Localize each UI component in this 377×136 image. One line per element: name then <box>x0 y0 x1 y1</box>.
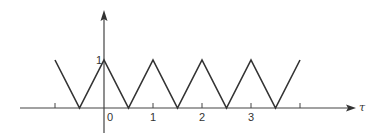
x-axis-label: τ <box>359 102 365 113</box>
x-tick-label-3: 3 <box>248 112 254 123</box>
triangle-wave-line <box>55 60 300 108</box>
triangle-wave-figure: 1 0 1 2 3 τ <box>0 0 377 136</box>
x-tick-label-1: 1 <box>150 112 156 123</box>
x-tick-label-2: 2 <box>199 112 205 123</box>
x-tick-label-0: 0 <box>107 112 113 123</box>
y-peak-label: 1 <box>96 55 102 66</box>
plot-canvas <box>0 0 377 136</box>
